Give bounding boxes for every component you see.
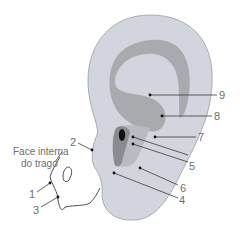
label-1: 1 — [29, 188, 35, 200]
point-3 — [57, 196, 60, 199]
annotation-line2: do trago — [21, 158, 58, 169]
label-5: 5 — [189, 160, 195, 172]
point-8 — [161, 115, 164, 118]
label-7: 7 — [198, 131, 204, 143]
ear-diagram: 9 8 7 5 6 4 2 1 3 Face interna do trago — [0, 0, 245, 238]
label-6: 6 — [180, 182, 186, 194]
point-1 — [49, 182, 52, 185]
point-6 — [139, 167, 142, 170]
point-4 — [113, 172, 116, 175]
point-9 — [149, 94, 152, 97]
point-7 — [154, 136, 157, 139]
point-2 — [91, 149, 94, 152]
ear-canal — [119, 129, 125, 141]
label-3: 3 — [33, 204, 39, 216]
annotation-line1: Face interna — [13, 146, 69, 157]
leader-3 — [41, 197, 58, 207]
point-5b — [132, 143, 135, 146]
label-2: 2 — [70, 136, 76, 148]
label-8: 8 — [214, 110, 220, 122]
point-5a — [132, 136, 135, 139]
tragus-oval — [63, 167, 72, 182]
label-4: 4 — [179, 194, 185, 206]
leader-1 — [37, 183, 50, 192]
label-9: 9 — [219, 89, 225, 101]
leader-2 — [78, 143, 92, 150]
